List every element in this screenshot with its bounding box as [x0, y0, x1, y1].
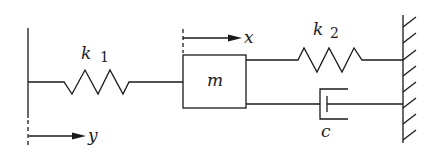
- label-mass: m: [207, 70, 223, 90]
- label-x: x: [244, 27, 254, 47]
- spring-k1: [28, 70, 183, 94]
- label-k1-subscript: 1: [100, 49, 109, 65]
- label-y: y: [87, 125, 98, 145]
- y-arrowhead-icon: [72, 133, 86, 140]
- mass-spring-damper-diagram: k 1 k 2 m c x y: [0, 0, 438, 153]
- spring-k2: [246, 48, 403, 72]
- x-arrowhead-icon: [228, 35, 242, 42]
- wall-hatching: [403, 17, 416, 140]
- label-damper: c: [321, 121, 331, 141]
- label-k1: k: [81, 43, 91, 63]
- label-k2-subscript: 2: [330, 25, 339, 41]
- label-k2: k: [313, 19, 323, 39]
